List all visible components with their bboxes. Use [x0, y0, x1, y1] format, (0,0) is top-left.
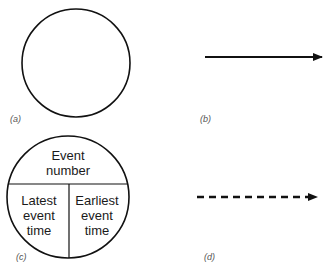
- panel-b: (b): [200, 57, 322, 124]
- latest-line1: Latest: [21, 193, 57, 208]
- panel-c: Event number Latest event time Earliest …: [7, 136, 129, 262]
- panel-a: (a): [10, 9, 130, 124]
- latest-line3: time: [27, 223, 52, 238]
- caption-d: (d): [204, 252, 215, 262]
- panel-d: (d): [197, 197, 317, 262]
- earliest-line1: Earliest: [75, 193, 119, 208]
- caption-c: (c): [16, 252, 27, 262]
- diagram-canvas: (a) (b) Event number Latest event time E…: [0, 0, 330, 276]
- event-node-circle: [22, 9, 130, 117]
- earliest-line3: time: [85, 223, 110, 238]
- event-number-line1: Event: [51, 148, 85, 163]
- caption-b: (b): [200, 114, 211, 124]
- caption-a: (a): [10, 114, 21, 124]
- earliest-line2: event: [81, 208, 113, 223]
- event-number-line2: number: [46, 163, 91, 178]
- latest-line2: event: [23, 208, 55, 223]
